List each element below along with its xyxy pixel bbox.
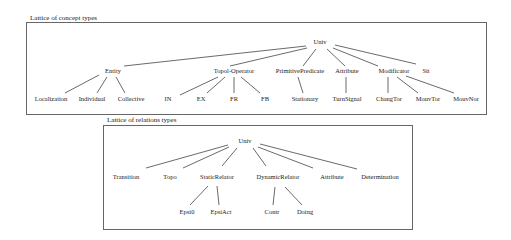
concept-node-sit: Sit [422,67,429,74]
concept-node-localization: Localization [35,95,67,102]
relation-node-dynamic-relator: DynamicRelator [257,173,300,180]
relation-node-transition: Transition [113,173,140,180]
relation-node-static-relator: StaticRelator [200,173,234,180]
concept-lattice-caption: Lattice of concept types [30,14,97,22]
concept-node-in: IN [165,95,172,102]
concept-node-turn-signal: TurnSignal [332,95,361,102]
concept-node-entity: Entity [105,67,121,74]
concept-node-topol-operator: Topol-Operator [214,67,254,74]
concept-node-attribute: Attribute [335,67,358,74]
concept-node-modificator: Modificator [378,67,409,74]
concept-node-mouv-nor: MouvNor [453,95,479,102]
concept-node-individual: Individual [79,95,106,102]
relation-node-contr: Contr [265,208,280,215]
relation-node-topo: Topo [163,173,176,180]
relation-node-doing: Doing [297,208,313,215]
relation-node-epsi0: Epsi0 [180,208,195,215]
concept-node-ex: EX [197,95,206,102]
relation-node-epsi-act: EpsiAct [211,208,232,215]
concept-node-stationary: Stationary [292,95,319,102]
relation-node-attribute: Attribute [320,173,343,180]
concept-node-fr: FR [230,95,238,102]
concept-node-chang-tor: ChangTor [376,95,402,102]
concept-node-primitive-predicate: PrimitivePredicate [276,67,324,74]
concept-node-univ: Univ [314,38,327,45]
concept-node-fb: FB [261,95,269,102]
relation-node-determination: Determination [361,173,399,180]
relation-lattice-caption: Lattice of relations types [107,116,176,124]
relation-node-univ: Univ [239,137,252,144]
concept-node-mouv-tor: MouvTor [416,95,440,102]
concept-node-collective: Collective [118,95,145,102]
